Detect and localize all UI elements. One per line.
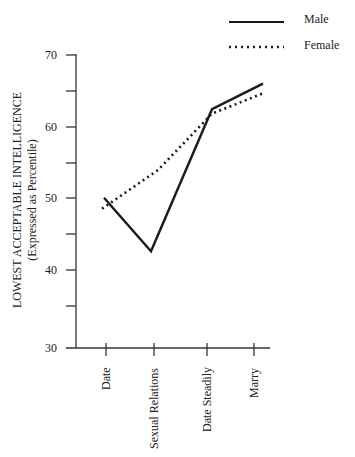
legend-female-label: Female	[304, 38, 339, 52]
series-female-line	[102, 94, 262, 209]
x-label-sexual-relations: Sexual Relations	[147, 368, 161, 449]
y-tick-labels: 70 60 50 40 30	[45, 48, 57, 355]
line-chart: Male Female 70 60 50 40 30 LOWEST ACCEPT…	[0, 0, 355, 457]
legend-male-label: Male	[304, 12, 329, 26]
y-tick-40: 40	[45, 263, 57, 277]
x-label-marry: Marry	[247, 368, 261, 398]
series-male-line	[104, 84, 263, 252]
y-tick-50: 50	[45, 191, 57, 205]
x-axis	[66, 343, 270, 356]
x-label-date: Date	[99, 367, 113, 390]
x-tick-labels: Date Sexual Relations Date Steadily Marr…	[99, 367, 261, 449]
y-axis	[66, 54, 76, 348]
y-axis-subtitle: (Expressed as Percentile)	[25, 139, 39, 260]
y-tick-30: 30	[45, 341, 57, 355]
x-label-date-steadily: Date Steadily	[200, 367, 214, 432]
y-tick-60: 60	[45, 120, 57, 134]
series-layer	[102, 84, 263, 252]
y-axis-title: LOWEST ACCEPTABLE INTELLIGENCE	[10, 92, 24, 308]
y-tick-70: 70	[45, 48, 57, 62]
legend: Male Female	[229, 12, 339, 52]
